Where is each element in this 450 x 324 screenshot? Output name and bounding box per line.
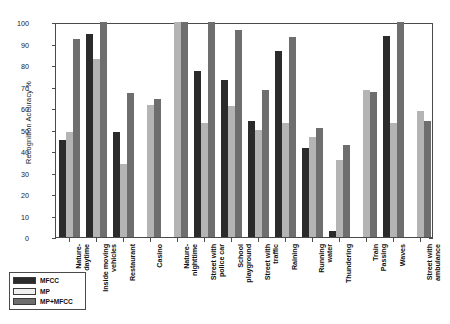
- x-tick-mark: [285, 238, 286, 242]
- bar: [275, 51, 282, 237]
- plot-area: [55, 23, 433, 238]
- y-tick-mark-right: [429, 238, 433, 239]
- x-category-label: Street with traffic: [264, 244, 280, 324]
- legend-label: MFCC: [40, 277, 59, 284]
- x-category-label: Thundering: [345, 244, 353, 324]
- x-tick-mark: [150, 238, 151, 242]
- legend-swatch: [13, 277, 36, 284]
- bar: [255, 130, 262, 238]
- bar: [66, 132, 73, 237]
- bar-group: [167, 24, 188, 237]
- x-category-label: Inside moving vehicles: [102, 244, 118, 324]
- x-tick-mark: [204, 238, 205, 242]
- bar: [174, 22, 181, 237]
- x-tick-mark: [366, 238, 367, 242]
- y-tick-label: 100: [3, 19, 29, 28]
- x-category-label: Nature- nighttime: [183, 244, 199, 324]
- y-tick-label: 70: [3, 83, 29, 92]
- x-category-label: Street with police car: [210, 244, 226, 324]
- bar: [343, 145, 350, 237]
- bar: [93, 59, 100, 237]
- bar: [154, 99, 161, 237]
- x-tick-mark: [258, 238, 259, 242]
- bar: [248, 121, 255, 237]
- bar-group: [275, 24, 296, 237]
- bar: [120, 164, 127, 237]
- x-tick-mark: [177, 238, 178, 242]
- bar: [390, 123, 397, 237]
- x-tick-mark: [231, 238, 232, 242]
- bar: [302, 148, 309, 237]
- x-category-label: Restaurant: [129, 244, 137, 324]
- legend-item: MFCC: [13, 276, 82, 285]
- legend-swatch: [13, 298, 36, 305]
- x-category-label: Train Passing: [372, 244, 388, 324]
- legend-item: MP: [13, 287, 82, 296]
- x-category-label: Waves: [399, 244, 407, 324]
- bar: [289, 37, 296, 237]
- x-tick-mark: [123, 238, 124, 242]
- bar-group: [194, 24, 215, 237]
- bar: [262, 90, 269, 237]
- y-tick-label: 30: [3, 169, 29, 178]
- chart-legend: MFCCMPMP+MFCC: [9, 272, 86, 310]
- x-category-label: Running water: [318, 244, 334, 324]
- bar-chart-figure: Recognition Accuracy % 01020304050607080…: [0, 0, 450, 324]
- bar: [329, 231, 336, 237]
- bar: [181, 22, 188, 237]
- bar-group: [59, 24, 80, 237]
- x-tick-mark: [312, 238, 313, 242]
- bar-group: [383, 24, 404, 237]
- bar: [208, 22, 215, 237]
- y-tick-label: 80: [3, 62, 29, 71]
- bar-group: [140, 24, 161, 237]
- x-category-label: Casino: [156, 244, 164, 324]
- bar-group: [329, 24, 350, 237]
- bar: [221, 80, 228, 237]
- legend-swatch: [13, 288, 36, 295]
- bar: [147, 105, 154, 237]
- bar: [194, 71, 201, 237]
- legend-label: MP: [40, 288, 50, 295]
- bar-group: [248, 24, 269, 237]
- x-tick-mark: [69, 238, 70, 242]
- bar: [113, 132, 120, 237]
- x-category-label: Raining: [291, 244, 299, 324]
- x-tick-mark: [393, 238, 394, 242]
- x-tick-mark: [420, 238, 421, 242]
- bar: [370, 92, 377, 237]
- bar-group: [221, 24, 242, 237]
- bar: [201, 123, 208, 237]
- x-category-label: Street with ambulance: [426, 244, 442, 324]
- y-tick-mark: [52, 238, 56, 239]
- y-axis-title: Recognition Accuracy %: [24, 33, 33, 213]
- bar-group: [86, 24, 107, 237]
- x-tick-mark: [96, 238, 97, 242]
- bar: [424, 121, 431, 237]
- bar-group: [356, 24, 377, 237]
- x-tick-mark: [339, 238, 340, 242]
- bar: [336, 160, 343, 237]
- y-tick-label: 40: [3, 148, 29, 157]
- bar: [397, 22, 404, 237]
- bar: [86, 34, 93, 237]
- y-tick-label: 20: [3, 191, 29, 200]
- y-tick-label: 60: [3, 105, 29, 114]
- legend-item: MP+MFCC: [13, 297, 82, 306]
- bar: [316, 128, 323, 237]
- bar: [383, 36, 390, 237]
- bar: [235, 30, 242, 237]
- y-tick-label: 90: [3, 40, 29, 49]
- y-tick-label: 0: [3, 234, 29, 243]
- y-tick-label: 50: [3, 126, 29, 135]
- x-category-label: School playground: [237, 244, 253, 324]
- bar-group: [410, 24, 431, 237]
- bar: [73, 39, 80, 237]
- y-tick-label: 10: [3, 212, 29, 221]
- bar: [309, 137, 316, 237]
- bar: [228, 106, 235, 237]
- bar: [363, 90, 370, 237]
- bar: [100, 22, 107, 237]
- bar-group: [302, 24, 323, 237]
- bar: [127, 93, 134, 237]
